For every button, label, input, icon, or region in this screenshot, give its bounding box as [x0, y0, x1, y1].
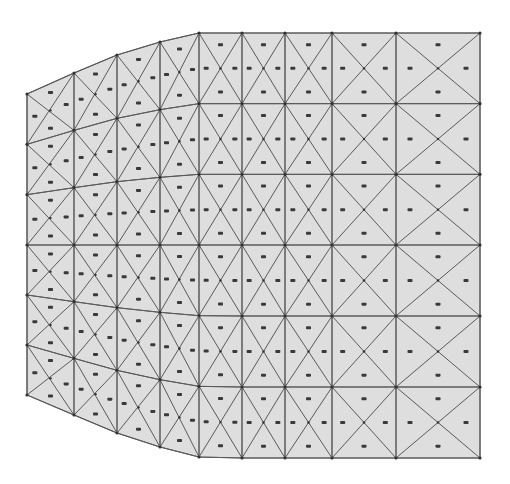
mesh-node [283, 102, 286, 105]
element-label [204, 67, 209, 70]
mesh-node [94, 393, 96, 395]
mesh-node [137, 211, 139, 213]
mesh-node [307, 138, 309, 140]
mesh-node [437, 138, 439, 140]
element-label [136, 254, 141, 257]
mesh-node [330, 385, 333, 388]
element-label [383, 208, 388, 211]
mesh-node [158, 378, 161, 381]
mesh-node [394, 102, 397, 105]
mesh-node [240, 173, 243, 176]
mesh-node [178, 140, 180, 142]
element-label [218, 444, 223, 447]
mesh-node [330, 173, 333, 176]
element-label [64, 327, 69, 330]
mesh-node [197, 385, 200, 388]
element-label [464, 421, 469, 424]
element-label [48, 235, 53, 238]
element-label [136, 384, 141, 387]
mesh-node [478, 385, 481, 388]
element-label [150, 343, 155, 346]
element-label [290, 208, 295, 211]
element-label [464, 138, 469, 141]
element-label [93, 193, 98, 196]
element-label [32, 269, 37, 272]
element-label [164, 277, 169, 280]
mesh-node [219, 208, 221, 210]
element-label [93, 253, 98, 256]
mesh-node [394, 456, 397, 459]
element-label [275, 208, 280, 211]
element-label [204, 208, 209, 211]
element-label [362, 326, 367, 329]
mesh-node [137, 146, 139, 148]
element-label [261, 397, 266, 400]
mesh-node [307, 350, 309, 352]
element-label [322, 350, 327, 353]
element-label [340, 138, 345, 141]
element-label [48, 199, 53, 202]
mesh-node [94, 274, 96, 276]
element-label [136, 319, 141, 322]
mesh-node [219, 279, 221, 281]
element-label [218, 90, 223, 93]
element-label [93, 413, 98, 416]
element-label [464, 350, 469, 353]
mesh-node [307, 421, 309, 423]
element-label [177, 255, 182, 258]
mesh-node [25, 343, 28, 346]
element-label [122, 83, 127, 86]
element-label [190, 279, 195, 282]
element-label [190, 68, 195, 71]
element-label [150, 210, 155, 213]
element-label [436, 161, 441, 164]
mesh-node [158, 176, 161, 179]
mesh-node [178, 347, 180, 349]
mesh-node [307, 279, 309, 281]
element-label [464, 279, 469, 282]
element-label [261, 161, 266, 164]
element-label [93, 373, 98, 376]
element-label [362, 255, 367, 258]
element-label [322, 138, 327, 141]
element-label [232, 67, 237, 70]
mesh-node [219, 67, 221, 69]
element-label [177, 232, 182, 235]
element-label [177, 163, 182, 166]
element-label [107, 150, 112, 153]
element-label [177, 393, 182, 396]
element-label [306, 90, 311, 93]
element-label [177, 186, 182, 189]
element-label [436, 232, 441, 235]
mesh-node [283, 456, 286, 459]
mesh-node [178, 71, 180, 73]
element-label [122, 339, 127, 342]
mesh-node [137, 341, 139, 343]
element-label [362, 445, 367, 448]
mesh-node [25, 143, 28, 146]
mesh-node [437, 67, 439, 69]
element-label [64, 382, 69, 385]
mesh-node [25, 193, 28, 196]
mesh-node [478, 243, 481, 246]
mesh-node [178, 278, 180, 280]
element-label [383, 279, 388, 282]
mesh-node [307, 208, 309, 210]
element-label [261, 232, 266, 235]
element-label [306, 161, 311, 164]
element-label [362, 43, 367, 46]
element-label [122, 147, 127, 150]
element-label [362, 114, 367, 117]
element-label [107, 274, 112, 277]
mesh-node [262, 67, 264, 69]
element-label [408, 67, 413, 70]
mesh-node [437, 350, 439, 352]
mesh-node [72, 300, 75, 303]
mesh-node [262, 421, 264, 423]
element-label [150, 143, 155, 146]
element-label [275, 279, 280, 282]
element-label [177, 324, 182, 327]
mesh-node [240, 385, 243, 388]
mesh-node [25, 92, 28, 95]
mesh-node [478, 102, 481, 105]
